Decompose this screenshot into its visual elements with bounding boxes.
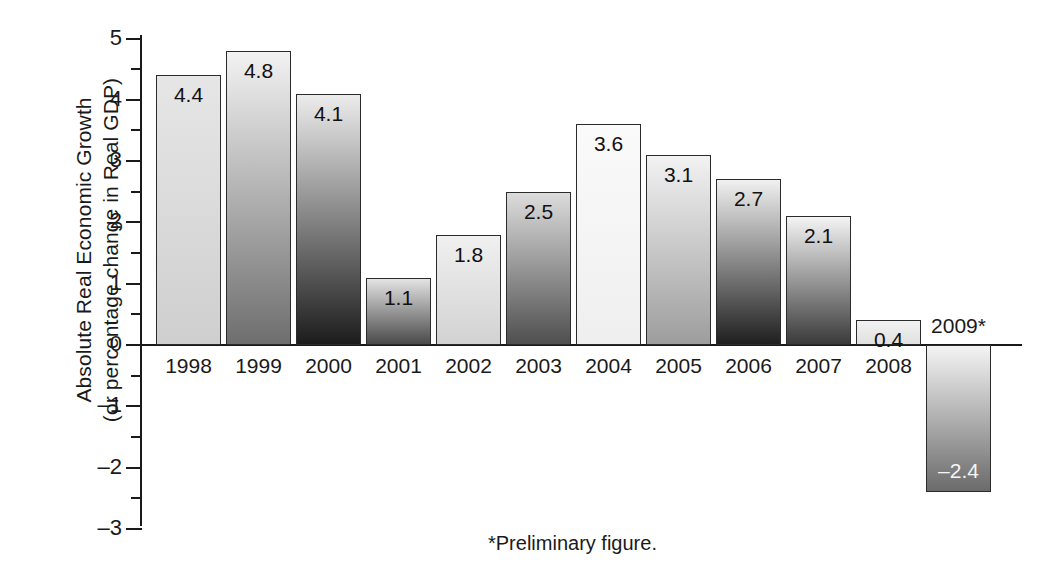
- y-tick-neg2: [126, 467, 142, 469]
- y-minor-tick: [131, 191, 142, 193]
- bar-2000: 4.1: [296, 94, 361, 345]
- bar-2005: 3.1: [646, 155, 711, 345]
- y-tick-neg1: [126, 405, 142, 407]
- y-minor-tick: [131, 497, 142, 499]
- bar-value-label: 4.1: [297, 102, 360, 126]
- y-tick-label: 3: [78, 148, 122, 172]
- y-tick-label: 2: [78, 209, 122, 233]
- bar-value-label: 2.1: [787, 224, 850, 248]
- bar-2008: 0.4: [856, 320, 921, 345]
- bar-value-label: 2.5: [507, 200, 570, 224]
- x-label-2003: 2003: [500, 354, 577, 378]
- y-minor-tick: [131, 375, 142, 377]
- y-axis-title: Absolute Real Economic Growth (or percen…: [62, 0, 132, 500]
- bar-1999: 4.8: [226, 51, 291, 345]
- x-label-1999: 1999: [220, 354, 297, 378]
- y-minor-tick: [131, 252, 142, 254]
- x-label-2001: 2001: [360, 354, 437, 378]
- y-tick-4: [126, 99, 142, 101]
- bar-value-label: 1.8: [437, 243, 500, 267]
- bar-value-label: 2.7: [717, 187, 780, 211]
- y-tick-label: –1: [78, 393, 122, 417]
- y-minor-tick: [131, 436, 142, 438]
- bar-2003: 2.5: [506, 192, 571, 345]
- x-label-2005: 2005: [640, 354, 717, 378]
- x-label-2008: 2008: [850, 354, 927, 378]
- y-tick-3: [126, 160, 142, 162]
- bar-value-label: 0.4: [857, 328, 920, 352]
- y-tick-label: 0: [78, 332, 122, 356]
- y-tick-label: –3: [78, 516, 122, 540]
- bar-value-label: 1.1: [367, 286, 430, 310]
- bar-2001: 1.1: [366, 278, 431, 345]
- x-label-2006: 2006: [710, 354, 787, 378]
- y-tick-label: 1: [78, 271, 122, 295]
- x-label-1998: 1998: [150, 354, 227, 378]
- x-label-2004: 2004: [570, 354, 647, 378]
- bar-2009: –2.4: [926, 345, 991, 492]
- bar-value-label: 3.1: [647, 163, 710, 187]
- footnote: *Preliminary figure.: [488, 532, 657, 555]
- y-minor-tick: [131, 68, 142, 70]
- y-tick-1: [126, 283, 142, 285]
- x-label-2009: 2009*: [920, 314, 997, 338]
- bar-value-label: 4.8: [227, 59, 290, 83]
- x-label-2002: 2002: [430, 354, 507, 378]
- y-minor-tick: [131, 129, 142, 131]
- y-tick-neg3: [126, 528, 142, 530]
- bar-2006: 2.7: [716, 179, 781, 345]
- bar-chart: Absolute Real Economic Growth (or percen…: [0, 0, 1061, 582]
- y-tick-2: [126, 221, 142, 223]
- bar-value-label: –2.4: [927, 459, 990, 483]
- y-minor-tick: [131, 313, 142, 315]
- y-tick-5: [126, 38, 142, 40]
- y-axis-title-line-2: (or percentage change in Real GDP): [97, 78, 124, 422]
- y-axis-title-line-1: Absolute Real Economic Growth: [70, 97, 97, 402]
- bar-value-label: 4.4: [157, 83, 220, 107]
- y-tick-label: 5: [78, 26, 122, 50]
- x-label-2007: 2007: [780, 354, 857, 378]
- bar-value-label: 3.6: [577, 132, 640, 156]
- bar-2004: 3.6: [576, 124, 641, 345]
- x-label-2000: 2000: [290, 354, 367, 378]
- bar-2002: 1.8: [436, 235, 501, 345]
- bar-1998: 4.4: [156, 75, 221, 345]
- y-tick-label: –2: [78, 455, 122, 479]
- y-tick-label: 4: [78, 87, 122, 111]
- y-axis-spine: [140, 35, 142, 526]
- bar-2007: 2.1: [786, 216, 851, 345]
